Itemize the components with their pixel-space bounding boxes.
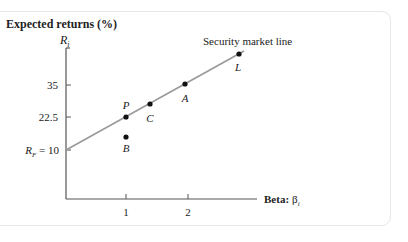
y-tick-rf: RF = 10	[24, 144, 59, 159]
x-tick-2: 2	[185, 206, 191, 218]
point-A	[182, 81, 187, 86]
point-C	[147, 101, 152, 106]
axes	[66, 48, 257, 199]
y-axis-title: Expected returns (%)	[6, 17, 117, 31]
x-axis-title: Beta:βi	[264, 193, 300, 208]
point-label-A: A	[181, 92, 189, 104]
point-label-P: P	[122, 99, 130, 111]
point-L	[236, 51, 241, 56]
y-tick-35: 35	[47, 79, 59, 91]
security-market-line	[66, 51, 244, 150]
point-label-C: C	[146, 112, 154, 124]
sml-chart: Expected returns (%) Ri 35 22.5 RF = 10 …	[0, 0, 408, 242]
point-label-L: L	[234, 61, 241, 73]
point-label-B: B	[123, 142, 130, 154]
y-tick-22-5: 22.5	[39, 111, 59, 123]
data-points: P B C A L	[122, 51, 242, 154]
sml-label: Security market line	[203, 35, 292, 47]
x-tick-1: 1	[123, 206, 129, 218]
point-P	[123, 114, 128, 119]
y-axis-symbol: Ri	[59, 33, 70, 49]
point-B	[123, 134, 128, 139]
